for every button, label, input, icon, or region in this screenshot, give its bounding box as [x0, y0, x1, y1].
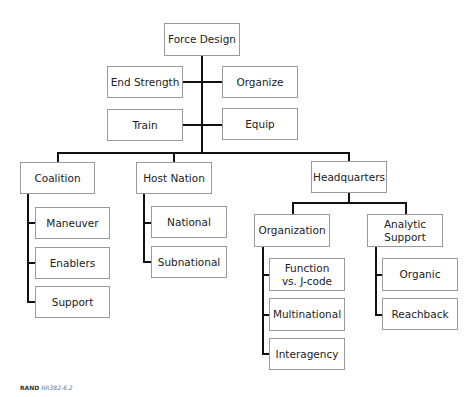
connector-host-trunk — [143, 194, 145, 263]
node-subnational: Subnational — [151, 246, 227, 278]
node-support: Support — [35, 286, 110, 318]
figure-credit: RAND RR382-6.2 — [20, 384, 73, 391]
connector-host-nation — [173, 152, 175, 162]
node-maneuver: Maneuver — [35, 207, 110, 239]
node-analytic-support: Analytic Support — [367, 214, 443, 247]
connector-support — [27, 301, 35, 303]
node-host-nation: Host Nation — [136, 162, 212, 194]
connector-coalition — [57, 152, 59, 162]
credit-id: RR382-6.2 — [41, 384, 73, 391]
connector-hq-bar — [292, 202, 407, 204]
node-end-strength: End Strength — [107, 66, 183, 98]
node-organize: Organize — [222, 66, 298, 98]
node-enablers: Enablers — [35, 247, 110, 279]
connector-coalition-trunk — [27, 194, 29, 303]
node-train: Train — [107, 109, 183, 141]
connector-maneuver — [27, 222, 35, 224]
node-function-vs-jcode: Function vs. J-code — [269, 258, 345, 291]
node-headquarters: Headquarters — [311, 161, 387, 193]
node-reachback: Reachback — [382, 298, 458, 330]
connector-end-strength — [183, 81, 222, 83]
node-interagency: Interagency — [269, 338, 345, 370]
connector-organization — [292, 202, 294, 214]
node-organic: Organic — [382, 258, 458, 291]
connector-train — [183, 124, 222, 126]
node-national: National — [151, 206, 227, 238]
node-organization: Organization — [254, 214, 330, 247]
connector-analytic-trunk — [375, 247, 377, 316]
connector-national — [143, 222, 151, 224]
connector-analytic-support — [405, 202, 407, 214]
connector-org-trunk — [262, 247, 264, 355]
node-coalition: Coalition — [20, 162, 95, 194]
connector-level1-bar — [57, 152, 350, 154]
connector-enablers — [27, 262, 35, 264]
node-equip: Equip — [222, 108, 298, 140]
connector-root-trunk — [201, 56, 203, 153]
node-multinational: Multinational — [269, 298, 345, 331]
node-force-design: Force Design — [164, 23, 240, 56]
connector-subnational — [143, 261, 151, 263]
credit-org: RAND — [20, 384, 39, 391]
